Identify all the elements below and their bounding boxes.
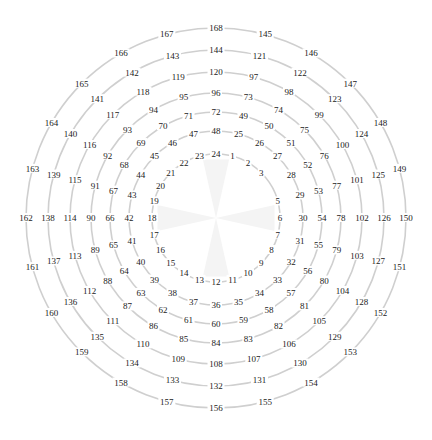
number-label: 165 — [75, 79, 89, 89]
number-label: 98 — [285, 87, 295, 97]
number-label: 164 — [45, 118, 59, 128]
number-label: 158 — [114, 378, 128, 388]
number-label: 73 — [244, 92, 254, 102]
number-label: 136 — [64, 297, 78, 307]
number-label: 2 — [246, 158, 251, 168]
number-label: 120 — [209, 67, 223, 77]
number-label: 141 — [90, 94, 104, 104]
number-label: 8 — [269, 245, 274, 255]
number-label: 36 — [212, 300, 222, 310]
number-label: 135 — [90, 332, 104, 342]
number-label: 74 — [274, 105, 284, 115]
number-label: 111 — [106, 316, 119, 326]
number-label: 82 — [274, 321, 283, 331]
number-label: 57 — [286, 288, 296, 298]
number-label: 42 — [125, 213, 134, 223]
number-label: 121 — [253, 51, 267, 61]
number-label: 152 — [374, 308, 388, 318]
number-label: 69 — [137, 138, 147, 148]
spoke-wedge — [203, 159, 229, 218]
number-label: 51 — [286, 138, 295, 148]
number-label: 55 — [314, 240, 324, 250]
number-label: 88 — [103, 276, 113, 286]
number-label: 148 — [374, 118, 388, 128]
number-label: 155 — [258, 397, 272, 407]
number-label: 20 — [156, 181, 166, 191]
number-label: 35 — [234, 297, 244, 307]
number-label: 59 — [239, 315, 249, 325]
number-label: 32 — [287, 257, 296, 267]
number-label: 127 — [372, 256, 386, 266]
number-label: 142 — [125, 68, 139, 78]
number-label: 72 — [212, 107, 221, 117]
number-label: 83 — [244, 334, 254, 344]
number-label: 103 — [350, 251, 364, 261]
number-label: 143 — [166, 51, 180, 61]
number-label: 1 — [230, 151, 235, 161]
number-label: 28 — [287, 170, 297, 180]
number-label: 128 — [355, 297, 369, 307]
number-label: 9 — [259, 258, 264, 268]
number-label: 79 — [332, 245, 342, 255]
number-label: 124 — [355, 129, 369, 139]
number-label: 85 — [179, 334, 189, 344]
number-label: 27 — [273, 151, 283, 161]
number-label: 133 — [166, 375, 180, 385]
number-label: 110 — [136, 339, 150, 349]
number-label: 161 — [26, 262, 40, 272]
number-label: 94 — [149, 105, 159, 115]
number-label: 49 — [239, 111, 249, 121]
number-label: 47 — [189, 129, 199, 139]
number-label: 92 — [103, 151, 112, 161]
number-label: 118 — [136, 87, 150, 97]
number-label: 102 — [355, 213, 369, 223]
number-label: 125 — [372, 170, 386, 180]
number-label: 137 — [47, 256, 61, 266]
number-label: 26 — [255, 138, 265, 148]
concentric-rings-diagram: 1235678910111213141516171819202122232425… — [0, 0, 432, 440]
number-label: 167 — [160, 29, 174, 39]
number-label: 84 — [212, 338, 222, 348]
number-label: 76 — [320, 151, 330, 161]
number-label: 77 — [332, 181, 342, 191]
number-label: 126 — [377, 213, 391, 223]
number-label: 6 — [278, 213, 283, 223]
number-label: 123 — [328, 94, 342, 104]
number-label: 34 — [255, 288, 265, 298]
number-label: 134 — [125, 358, 139, 368]
number-label: 12 — [212, 277, 221, 287]
number-label: 48 — [212, 126, 222, 136]
number-label: 19 — [150, 196, 160, 206]
number-label: 64 — [120, 266, 130, 276]
number-label: 117 — [106, 110, 120, 120]
number-label: 140 — [64, 129, 78, 139]
number-label: 29 — [296, 190, 306, 200]
number-label: 63 — [137, 288, 147, 298]
number-label: 87 — [123, 301, 133, 311]
number-label: 7 — [276, 230, 281, 240]
number-label: 5 — [276, 196, 281, 206]
number-label: 78 — [337, 213, 347, 223]
number-label: 39 — [150, 275, 160, 285]
number-label: 95 — [179, 92, 189, 102]
number-label: 132 — [209, 381, 223, 391]
number-label: 31 — [296, 236, 305, 246]
number-label: 3 — [259, 168, 264, 178]
number-label: 15 — [166, 258, 176, 268]
number-label: 70 — [159, 121, 169, 131]
number-label: 160 — [45, 308, 59, 318]
number-label: 99 — [315, 110, 325, 120]
number-label: 153 — [344, 347, 358, 357]
number-label: 93 — [123, 125, 133, 135]
number-label: 62 — [159, 305, 168, 315]
number-label: 45 — [150, 151, 160, 161]
number-label: 138 — [41, 213, 55, 223]
number-label: 21 — [166, 168, 175, 178]
number-label: 33 — [273, 275, 283, 285]
number-label: 115 — [68, 175, 82, 185]
number-label: 23 — [195, 151, 205, 161]
number-label: 91 — [91, 181, 100, 191]
number-label: 44 — [136, 170, 146, 180]
number-label: 38 — [168, 288, 178, 298]
number-label: 119 — [172, 72, 186, 82]
